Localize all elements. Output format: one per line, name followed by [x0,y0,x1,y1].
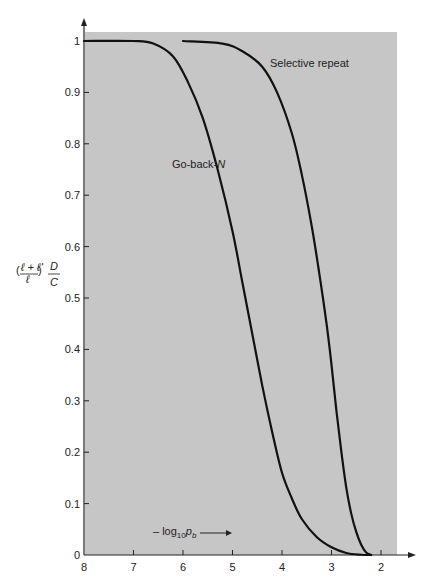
y-axis-arrow-icon [81,18,87,26]
ylabel-D: D [50,260,58,272]
x-tick-label: 3 [328,561,334,573]
ylabel-paren-open: ( [16,264,20,276]
x-tick-label: 6 [180,561,186,573]
x-tick-label: 4 [279,561,285,573]
y-tick-label: 0.6 [65,241,80,253]
x-tick-label: 5 [229,561,235,573]
ylabel-C: C [50,276,58,288]
y-axis-label: ( ℓ + ℓ' ℓ ) D C [16,260,60,288]
y-tick-label: 0.7 [65,189,80,201]
plot-background [85,32,397,555]
y-tick-label: 0.5 [65,292,80,304]
x-tick-label: 7 [130,561,136,573]
go-back-n-label: Go-back-N [172,158,225,170]
ylabel-paren-close: ) [38,264,42,276]
x-tick-label: 2 [378,561,384,573]
y-tick-label: 0.4 [65,343,80,355]
y-tick-label: 0.8 [65,138,80,150]
y-tick-label: 1 [74,35,80,47]
y-tick-label: 0.3 [65,395,80,407]
go-back-n-text: Go-back- [172,158,218,170]
ylabel-denominator: ℓ [25,273,30,285]
selective-repeat-label: Selective repeat [270,57,349,69]
chart: 00.10.20.30.40.50.60.70.80.918765432 Sel… [0,0,427,584]
y-tick-label: 0 [74,549,80,561]
y-tick-label: 0.2 [65,446,80,458]
x-axis-arrow-icon [408,552,416,558]
go-back-n-italic: N [217,158,225,170]
y-tick-label: 0.1 [65,498,80,510]
y-tick-label: 0.9 [65,86,80,98]
x-tick-label: 8 [81,561,87,573]
